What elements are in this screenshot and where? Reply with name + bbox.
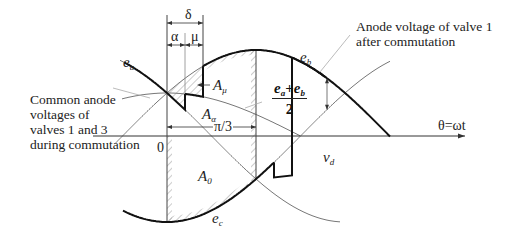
vd-main: v bbox=[323, 149, 330, 165]
Amu-main: A bbox=[213, 77, 222, 93]
theta-axis-arrowhead bbox=[458, 134, 465, 139]
theta-axis-label: θ=ωt bbox=[438, 119, 466, 133]
average-voltage-fraction: ea+eb 2 bbox=[272, 80, 307, 118]
Aalpha-main: A bbox=[202, 106, 211, 122]
ec-sub: c bbox=[219, 218, 223, 228]
mu-label: μ bbox=[191, 30, 199, 44]
anode-after-leader bbox=[320, 35, 350, 72]
mu-dimension-head-left bbox=[185, 43, 190, 47]
A0-right-hatch bbox=[251, 50, 256, 183]
num-s2: b bbox=[300, 88, 305, 98]
dimension-arrows bbox=[113, 21, 350, 129]
eb-label: eb bbox=[300, 50, 311, 67]
pi3-dimension-head-left bbox=[167, 125, 172, 129]
ea-sub: a bbox=[130, 62, 135, 72]
fraction-numerator: ea+eb bbox=[272, 80, 307, 99]
vd-sub: d bbox=[330, 157, 335, 167]
Amu-sub: μ bbox=[222, 85, 227, 95]
common-anode-annotation: Common anode voltages of valves 1 and 3 … bbox=[30, 92, 140, 152]
vd-label: vd bbox=[323, 150, 334, 167]
delta-dimension-head-right bbox=[198, 21, 203, 25]
ec-label: ec bbox=[212, 211, 223, 228]
A0-left-hatch bbox=[167, 136, 172, 222]
ea-label: ea bbox=[123, 55, 134, 72]
A0-sub: 0 bbox=[207, 176, 212, 186]
annotation-line: Common anode bbox=[30, 92, 140, 107]
A0-label: A0 bbox=[198, 169, 212, 186]
mu-dimension-head-right bbox=[198, 43, 203, 47]
num-plus: + bbox=[285, 80, 294, 96]
ea-main: e bbox=[123, 54, 130, 70]
anode-after-annotation: Anode voltage of valve 1 after commutati… bbox=[356, 19, 492, 49]
annotation-line: after commutation bbox=[356, 34, 492, 49]
origin-label: 0 bbox=[157, 141, 164, 155]
delta-dimension-head-left bbox=[167, 21, 172, 25]
eb-main: e bbox=[300, 49, 307, 65]
fraction-denominator: 2 bbox=[272, 101, 307, 118]
A-mu-label: Aμ bbox=[213, 78, 227, 95]
eb-sub: b bbox=[307, 57, 312, 67]
A0-main: A bbox=[198, 168, 207, 184]
num-e1: e bbox=[274, 80, 281, 96]
ec-main: e bbox=[212, 210, 219, 226]
annotation-line: valves 1 and 3 bbox=[30, 122, 140, 137]
A-alpha-label: Aα bbox=[202, 107, 216, 124]
delta-label: δ bbox=[185, 8, 192, 22]
annotation-line: Anode voltage of valve 1 bbox=[356, 19, 492, 34]
Aalpha-sub: α bbox=[211, 114, 216, 124]
annotation-line: voltages of bbox=[30, 107, 140, 122]
eb-thin-curve bbox=[115, 50, 385, 144]
alpha-label: α bbox=[171, 30, 178, 44]
annotation-line: during commutation bbox=[30, 137, 140, 152]
alpha-dimension-head-right bbox=[180, 43, 185, 47]
